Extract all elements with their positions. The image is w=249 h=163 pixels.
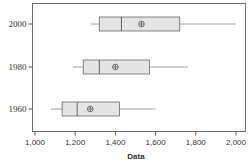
boxes <box>51 17 236 116</box>
x-tick-label: 1,400 <box>105 138 126 147</box>
x-tick-label: 1,200 <box>65 138 86 147</box>
y-tick-label: 1980 <box>9 62 28 72</box>
x-tick-label: 1,600 <box>146 138 167 147</box>
y-tick-label: 1960 <box>9 104 28 114</box>
x-axis-label: Data <box>127 152 145 161</box>
mean-marker-icon <box>139 21 145 27</box>
x-tick-label: 2,000 <box>226 138 247 147</box>
mean-marker-icon <box>113 64 119 70</box>
mean-marker-icon <box>87 106 93 112</box>
x-axis: 1,0001,2001,4001,6001,8002,000 <box>25 132 247 147</box>
y-axis: 200019801960 <box>9 19 33 114</box>
x-tick-label: 1,000 <box>25 138 46 147</box>
x-tick-label: 1,800 <box>186 138 207 147</box>
box-2000 <box>91 17 236 31</box>
boxplot-chart: 1,0001,2001,4001,6001,8002,000 200019801… <box>0 0 249 163</box>
box-1960 <box>51 102 156 116</box>
box-1980 <box>73 60 188 74</box>
y-tick-label: 2000 <box>9 19 28 29</box>
